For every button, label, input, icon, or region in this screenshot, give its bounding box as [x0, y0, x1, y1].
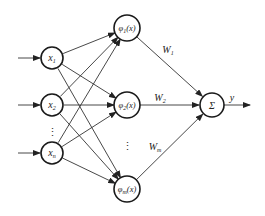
input-hidden-connection: [62, 64, 116, 98]
output-label: y: [229, 92, 235, 103]
input-hidden-connection: [62, 112, 116, 147]
input-hidden-connection: [60, 37, 118, 96]
hidden-ellipsis: ⋮: [122, 140, 133, 152]
hidden-label-phi1: φ1(x): [118, 23, 135, 34]
weight-label-1: W1: [162, 44, 173, 56]
sum-label: Σ: [208, 100, 215, 111]
weight-label-m: Wm: [149, 141, 162, 153]
input-hidden-connection: [58, 68, 121, 177]
input-hidden-connection: [63, 33, 115, 54]
weight-label-2: W2: [154, 92, 165, 104]
hidden-label-phi2: φ2(x): [118, 100, 135, 111]
weighted-connection: [136, 114, 203, 180]
input-ellipsis: ⋮: [47, 126, 58, 138]
input-hidden-connection: [58, 39, 120, 143]
hidden-label-phim: φm(x): [118, 184, 137, 195]
input-hidden-connection: [63, 158, 115, 183]
rbf-network-diagram: x1x2xnφ1(x)φ2(x)φm(x)Σ⋮⋮W1W2Wmy: [0, 0, 265, 216]
